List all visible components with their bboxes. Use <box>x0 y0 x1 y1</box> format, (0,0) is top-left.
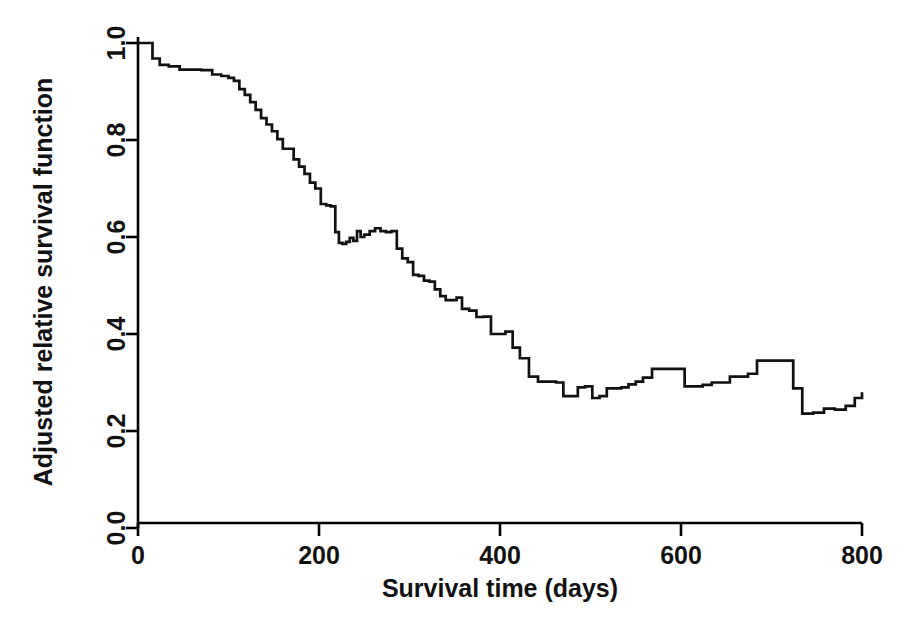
x-tick-label: 800 <box>841 541 883 569</box>
survival-chart-figure: 0.00.20.40.60.81.0 0200400600800 Surviva… <box>0 0 916 642</box>
x-tick-label: 600 <box>660 541 702 569</box>
y-tick-label: 0.4 <box>102 317 130 352</box>
x-tick-label: 0 <box>131 541 145 569</box>
x-axis-title: Survival time (days) <box>382 574 618 602</box>
y-tick-label: 0.2 <box>102 414 130 449</box>
y-axis-group: 0.00.20.40.60.81.0 <box>102 26 138 546</box>
x-tick-label: 400 <box>479 541 521 569</box>
y-axis-ticks <box>126 43 138 528</box>
y-tick-label: 0.0 <box>102 511 130 546</box>
y-tick-label: 1.0 <box>102 26 130 61</box>
x-axis-ticks <box>138 523 862 536</box>
survival-curve-line <box>138 43 862 414</box>
x-tick-label: 200 <box>298 541 340 569</box>
y-tick-label: 0.8 <box>102 123 130 158</box>
x-axis-group: 0200400600800 <box>131 523 883 569</box>
y-axis-title: Adjusted relative survival function <box>29 78 57 486</box>
y-axis-tick-labels: 0.00.20.40.60.81.0 <box>102 26 130 546</box>
x-axis-tick-labels: 0200400600800 <box>131 541 883 569</box>
plot-canvas: 0.00.20.40.60.81.0 0200400600800 Surviva… <box>0 0 916 642</box>
y-tick-label: 0.6 <box>102 220 130 255</box>
